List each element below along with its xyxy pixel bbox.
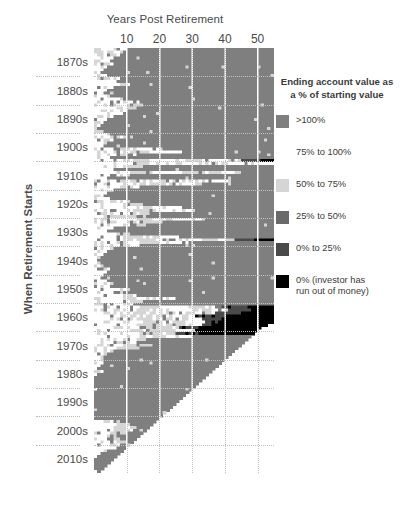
legend-entry-label: 75% to 100%: [296, 146, 351, 158]
y-tick-label-1950s: 1950s: [57, 283, 88, 295]
legend-entry-label-line2: run out of money): [296, 286, 369, 297]
y-tick-label-1960s: 1960s: [57, 311, 88, 323]
legend-swatch-icon: [276, 275, 289, 288]
y-tick-label-1870s: 1870s: [57, 56, 88, 68]
x-tick-label-50: 50: [251, 32, 264, 46]
legend-title: Ending account value as a % of starting …: [276, 76, 398, 101]
y-tick-label-2010s: 2010s: [57, 453, 88, 465]
y-tick-label-1990s: 1990s: [57, 396, 88, 408]
legend-entry-label: 50% to 75%: [296, 178, 346, 190]
legend-entry: >100%: [276, 114, 403, 141]
legend: Ending account value as a % of starting …: [276, 76, 403, 306]
y-tick-label-1930s: 1930s: [57, 226, 88, 238]
legend-entry: 25% to 50%: [276, 210, 403, 237]
y-gridline: [36, 275, 80, 276]
y-tick-label-1910s: 1910s: [57, 170, 88, 182]
y-gridline: [36, 331, 80, 332]
x-axis-title: Years Post Retirement: [60, 13, 270, 25]
chart-root: Years Post Retirement 1020304050 When Re…: [0, 0, 403, 507]
y-gridline: [36, 218, 80, 219]
legend-title-line1: Ending account value as: [276, 76, 398, 89]
y-tick-label-1900s: 1900s: [57, 141, 88, 153]
legend-swatch-icon: [276, 147, 289, 160]
y-gridline: [36, 445, 80, 446]
x-tick-label-30: 30: [185, 32, 198, 46]
y-tick-label-1880s: 1880s: [57, 85, 88, 97]
legend-swatch-icon: [276, 211, 289, 224]
legend-entry-label: 0% to 25%: [296, 242, 341, 254]
legend-swatch-icon: [276, 179, 289, 192]
y-gridline: [36, 303, 80, 304]
y-gridline: [36, 360, 80, 361]
legend-title-line2: a % of starting value: [276, 89, 398, 102]
y-tick-label-1980s: 1980s: [57, 368, 88, 380]
y-gridline: [36, 246, 80, 247]
y-tick-label-1940s: 1940s: [57, 255, 88, 267]
x-tick-label-20: 20: [153, 32, 166, 46]
legend-swatch-icon: [276, 243, 289, 256]
legend-entry-label: 25% to 50%: [296, 210, 346, 222]
legend-entry: 0% to 25%: [276, 242, 403, 269]
legend-swatch-icon: [276, 115, 289, 128]
x-axis-ticks: 1020304050: [94, 32, 274, 48]
y-axis-title: When Retirement Starts: [22, 169, 34, 329]
y-gridline: [36, 133, 80, 134]
heatmap-canvas: [94, 48, 274, 473]
y-gridline: [36, 76, 80, 77]
legend-entry-label-line1: 0% (investor has: [296, 275, 369, 286]
heatmap-plot-area: [94, 48, 274, 473]
legend-items: >100%75% to 100%50% to 75%25% to 50%0% t…: [276, 114, 403, 301]
x-tick-label-10: 10: [120, 32, 133, 46]
y-gridline: [36, 190, 80, 191]
y-gridline: [36, 388, 80, 389]
legend-entry: 75% to 100%: [276, 146, 403, 173]
y-gridline: [36, 416, 80, 417]
legend-entry: 50% to 75%: [276, 178, 403, 205]
y-tick-label-1920s: 1920s: [57, 198, 88, 210]
y-gridline: [36, 161, 80, 162]
x-tick-label-40: 40: [218, 32, 231, 46]
legend-entry-label: 0% (investor hasrun out of money): [296, 274, 369, 297]
legend-entry: 0% (investor hasrun out of money): [276, 274, 403, 301]
y-axis-ticks: 1870s1880s1890s1900s1910s1920s1930s1940s…: [36, 48, 88, 473]
legend-entry-label: >100%: [296, 114, 325, 126]
y-gridline: [36, 105, 80, 106]
y-tick-label-1890s: 1890s: [57, 113, 88, 125]
y-tick-label-1970s: 1970s: [57, 340, 88, 352]
y-tick-label-2000s: 2000s: [57, 425, 88, 437]
